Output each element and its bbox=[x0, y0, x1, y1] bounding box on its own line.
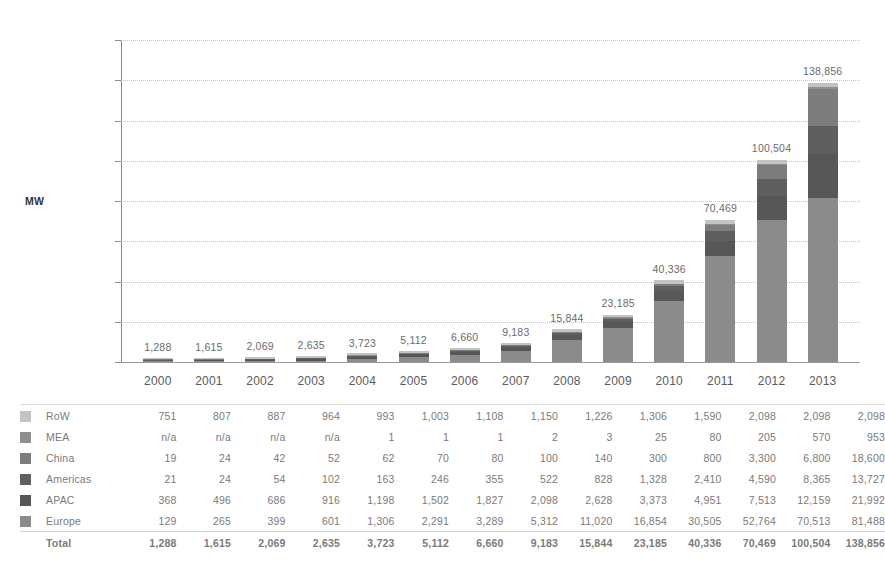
bar-group[interactable]: 70,469 bbox=[705, 40, 735, 362]
bar-stack[interactable] bbox=[347, 353, 377, 362]
bar-group[interactable]: 3,723 bbox=[347, 40, 377, 362]
x-tick-label: 2001 bbox=[195, 374, 223, 388]
total-cell: 100,504 bbox=[776, 532, 831, 554]
y-tick-mark bbox=[115, 201, 121, 202]
table-cell: 2,628 bbox=[558, 489, 613, 510]
bar-segment-europe[interactable] bbox=[194, 361, 224, 362]
data-table-container: RoW7518078879649931,0031,1081,1501,2261,… bbox=[0, 404, 885, 585]
bar-segment-china[interactable] bbox=[757, 165, 787, 179]
bar-segment-europe[interactable] bbox=[757, 220, 787, 362]
bar-value-label: 138,856 bbox=[803, 65, 842, 77]
bar-segment-apac[interactable] bbox=[705, 241, 735, 256]
table-cell: 80 bbox=[667, 426, 722, 447]
x-tick-label: 2008 bbox=[553, 374, 581, 388]
x-tick-label: 2002 bbox=[246, 374, 274, 388]
bar-stack[interactable] bbox=[552, 329, 582, 362]
bar-segment-europe[interactable] bbox=[603, 328, 633, 362]
bar-segment-europe[interactable] bbox=[552, 340, 582, 362]
series-label-americas: Americas bbox=[46, 468, 122, 489]
total-cell: 23,185 bbox=[613, 532, 668, 554]
bar-segment-europe[interactable] bbox=[654, 301, 684, 362]
bar-segment-europe[interactable] bbox=[347, 359, 377, 362]
bar-stack[interactable] bbox=[603, 315, 633, 362]
chart-area: MW 160,000140,000120,000100,00080,00060,… bbox=[0, 0, 885, 400]
table-cell: 18,600 bbox=[831, 447, 885, 468]
table-cell: 1,306 bbox=[613, 405, 668, 427]
table-cell: 205 bbox=[722, 426, 777, 447]
legend-swatch-cell bbox=[20, 489, 46, 510]
x-tick-label: 2005 bbox=[400, 374, 428, 388]
bar-segment-americas[interactable] bbox=[705, 231, 735, 240]
bar-value-label: 15,844 bbox=[550, 312, 583, 324]
x-tick-label: 2011 bbox=[707, 374, 734, 388]
bar-group[interactable]: 1,615 bbox=[194, 40, 224, 362]
bar-value-label: 1,288 bbox=[144, 341, 171, 353]
bar-group[interactable]: 1,288 bbox=[143, 40, 173, 362]
bar-group[interactable]: 40,336 bbox=[654, 40, 684, 362]
bar-segment-china[interactable] bbox=[705, 225, 735, 232]
bar-segment-europe[interactable] bbox=[450, 355, 480, 362]
bar-group[interactable]: 9,183 bbox=[501, 40, 531, 362]
bar-segment-apac[interactable] bbox=[603, 321, 633, 328]
x-tick-label: 2010 bbox=[655, 374, 683, 388]
x-tick-label: 2000 bbox=[144, 374, 172, 388]
bar-stack[interactable] bbox=[450, 348, 480, 362]
bar-stack[interactable] bbox=[245, 357, 275, 362]
bar-group[interactable]: 2,069 bbox=[245, 40, 275, 362]
gridline bbox=[121, 161, 860, 162]
bar-stack[interactable] bbox=[705, 220, 735, 362]
table-row: Europe1292653996011,3062,2913,2895,31211… bbox=[20, 510, 885, 532]
bar-segment-apac[interactable] bbox=[757, 196, 787, 220]
table-row-total: Total1,2881,6152,0692,6353,7235,1126,660… bbox=[20, 532, 885, 554]
bar-group[interactable]: 5,112 bbox=[399, 40, 429, 362]
bar-stack[interactable] bbox=[501, 343, 531, 362]
table-cell: 1 bbox=[340, 426, 395, 447]
bar-group[interactable]: 23,185 bbox=[603, 40, 633, 362]
table-cell: 953 bbox=[831, 426, 885, 447]
bar-segment-americas[interactable] bbox=[757, 179, 787, 196]
gridline bbox=[121, 201, 860, 202]
legend-swatch-cell bbox=[20, 510, 46, 532]
x-tick-label: 2007 bbox=[502, 374, 530, 388]
bar-group[interactable]: 2,635 bbox=[296, 40, 326, 362]
total-cell: 40,336 bbox=[667, 532, 722, 554]
total-cell: 9,183 bbox=[504, 532, 559, 554]
y-tick-mark bbox=[115, 80, 121, 81]
bar-segment-china[interactable] bbox=[808, 89, 838, 126]
bar-segment-europe[interactable] bbox=[296, 361, 326, 362]
data-table: RoW7518078879649931,0031,1081,1501,2261,… bbox=[20, 404, 885, 553]
bar-stack[interactable] bbox=[194, 358, 224, 362]
bar-group[interactable]: 15,844 bbox=[552, 40, 582, 362]
bar-stack[interactable] bbox=[757, 160, 787, 362]
bar-stack[interactable] bbox=[654, 280, 684, 362]
bar-segment-americas[interactable] bbox=[808, 126, 838, 154]
bar-group[interactable]: 100,504 bbox=[757, 40, 787, 362]
bar-value-label: 1,615 bbox=[195, 341, 222, 353]
table-row: China192442526270801001403008003,3006,80… bbox=[20, 447, 885, 468]
x-tick-label: 2006 bbox=[451, 374, 479, 388]
bar-stack[interactable] bbox=[399, 351, 429, 362]
bar-segment-europe[interactable] bbox=[808, 198, 838, 362]
total-swatch-placeholder bbox=[20, 532, 46, 554]
bar-group[interactable]: 138,856 bbox=[808, 40, 838, 362]
total-cell: 3,723 bbox=[340, 532, 395, 554]
legend-swatch-cell bbox=[20, 468, 46, 489]
bar-value-label: 40,336 bbox=[653, 263, 686, 275]
bar-segment-apac[interactable] bbox=[654, 291, 684, 301]
table-cell: 70 bbox=[395, 447, 450, 468]
table-row: RoW7518078879649931,0031,1081,1501,2261,… bbox=[20, 405, 885, 427]
bar-group[interactable]: 6,660 bbox=[450, 40, 480, 362]
table-cell: 300 bbox=[613, 447, 668, 468]
bar-segment-apac[interactable] bbox=[808, 154, 838, 198]
table-cell: 4,590 bbox=[722, 468, 777, 489]
table-cell: 163 bbox=[340, 468, 395, 489]
bar-stack[interactable] bbox=[808, 83, 838, 362]
legend-swatch-mea-icon bbox=[20, 432, 31, 443]
bar-stack[interactable] bbox=[143, 358, 173, 362]
bar-segment-europe[interactable] bbox=[501, 351, 531, 362]
bar-segment-europe[interactable] bbox=[705, 256, 735, 362]
bar-segment-europe[interactable] bbox=[245, 361, 275, 362]
bar-segment-europe[interactable] bbox=[143, 361, 173, 362]
bar-segment-europe[interactable] bbox=[399, 357, 429, 362]
bar-stack[interactable] bbox=[296, 356, 326, 362]
